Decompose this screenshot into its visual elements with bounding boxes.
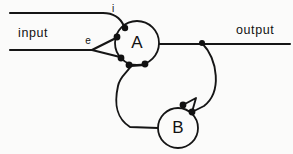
node-a-label: A	[131, 33, 143, 52]
excitatory-terminal-lower-dot	[118, 55, 125, 62]
circuit-diagram-canvas: A B input output i e	[0, 0, 293, 154]
b-input-terminal-dot	[180, 102, 187, 109]
node-b-label: B	[172, 118, 183, 137]
a-output-terminal-right-dot	[142, 61, 149, 68]
input-branch-upper	[92, 38, 116, 50]
diagram-svg: A B input output i e	[0, 0, 293, 154]
input-label: input	[18, 26, 48, 40]
a-output-terminal-left-dot	[126, 62, 133, 69]
inhibitory-terminal-top-dot	[122, 25, 128, 31]
excitatory-terminal-upper-dot	[114, 34, 121, 41]
feedback-path-left	[116, 66, 158, 128]
b-feedback-terminal-dot	[189, 109, 196, 116]
input-line-top	[10, 13, 124, 26]
output-label: output	[236, 23, 274, 37]
inhibitory-port-label: i	[112, 3, 114, 14]
output-junction-dot	[199, 40, 205, 46]
excitatory-port-label: e	[85, 35, 91, 46]
